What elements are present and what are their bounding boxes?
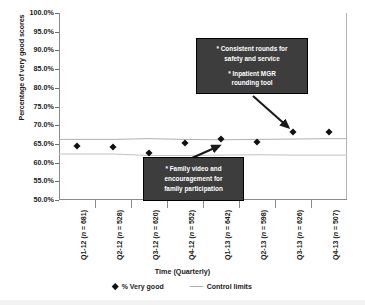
x-axis-tick-mark — [239, 200, 240, 208]
annotation-rounds: * Consistent rounds for safety and servi… — [196, 38, 308, 94]
x-axis-tick-label: Q2-12 (n = 528) — [116, 210, 123, 260]
x-axis-tick-label: Q4-12 (n = 552) — [188, 210, 195, 260]
diamond-marker-icon — [112, 283, 118, 289]
y-axis-tick-label: 60.0% — [0, 158, 59, 168]
annotation-family: * Family video and encouragement for fam… — [143, 157, 244, 201]
annotation-rounds-line4: rounding tool — [231, 79, 272, 86]
y-axis-tick-label: 50.0% — [0, 195, 59, 205]
x-axis-tick-label: Q2-13 (n = 598) — [260, 210, 267, 260]
annotation-family-line1: * Family video and — [165, 165, 221, 172]
x-axis-tick-label: Q1-12 (n = 681) — [80, 210, 87, 260]
x-axis-tick-label: Q1-13 (n = 642) — [224, 210, 231, 260]
y-axis-tick-label: 95.0% — [0, 27, 59, 37]
x-axis-tick-label: Q3-13 (n = 626) — [296, 210, 303, 260]
annotation-family-line3: family participation — [164, 185, 223, 192]
y-axis-tick-label: 80.0% — [0, 83, 59, 93]
legend-label-control-limits: Control limits — [207, 283, 252, 290]
y-axis-tick-label: 55.0% — [0, 176, 59, 186]
x-axis-tick-mark — [275, 200, 276, 208]
x-axis-tick-mark — [203, 200, 204, 208]
x-axis-tick-mark — [167, 200, 168, 208]
annotation-rounds-line2: safety and service — [224, 55, 279, 62]
annotation-rounds-line1: * Consistent rounds for — [216, 45, 287, 52]
x-axis-tick-mark — [131, 200, 132, 208]
y-axis-tick-label: 75.0% — [0, 102, 59, 112]
y-axis-tick-mark — [55, 200, 59, 201]
x-axis-title: Time (Quarterly) — [0, 267, 365, 276]
legend-label-very-good: % Very good — [122, 283, 164, 290]
y-axis-tick-label: 70.0% — [0, 120, 59, 130]
legend-item-very-good: % Very good — [113, 283, 164, 290]
x-axis-tick-label: Q3-12 (n = 620) — [152, 210, 159, 260]
upper-control-limit-line — [59, 139, 347, 140]
lower-control-limit-line — [59, 154, 347, 155]
chart-legend: % Very good Control limits — [0, 283, 365, 290]
control-chart: Percentage of very good scores 100.0%95.… — [0, 0, 365, 305]
annotation-family-line2: encouragement for — [165, 175, 223, 182]
x-axis-tick-mark — [95, 200, 96, 208]
y-axis-tick-label: 65.0% — [0, 139, 59, 149]
y-axis-tick-label: 90.0% — [0, 45, 59, 55]
line-marker-icon — [190, 286, 203, 287]
y-axis-tick-label: 100.0% — [0, 8, 59, 18]
bottom-strip — [0, 300, 365, 305]
x-axis-tick-mark — [311, 200, 312, 208]
y-axis-tick-label: 85.0% — [0, 64, 59, 74]
legend-item-control-limits: Control limits — [190, 283, 252, 290]
x-axis-tick-label: Q4-13 (n = 507) — [332, 210, 339, 260]
annotation-rounds-line3: * Inpatient MGR — [228, 70, 276, 77]
